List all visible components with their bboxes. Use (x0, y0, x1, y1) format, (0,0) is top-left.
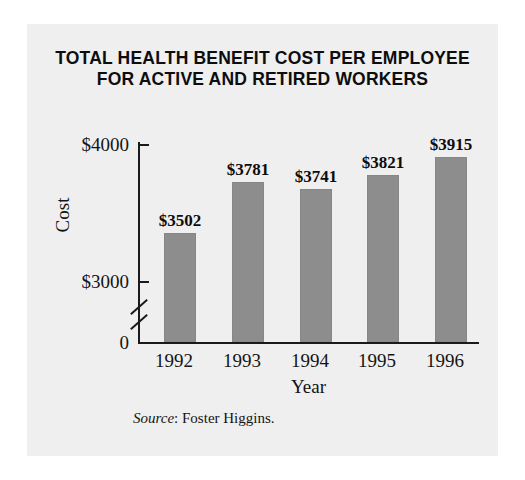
y-axis-title: Cost (52, 175, 74, 255)
x-axis-label-1994: 1994 (274, 350, 346, 372)
bar-value-label-1996: $3915 (415, 135, 487, 155)
bar-1993 (232, 182, 264, 342)
bar-1996 (435, 157, 467, 342)
bar-1992 (164, 233, 196, 342)
plot-area: $4000 $3000 0 Cost $3502$3781$3741$3821$… (27, 24, 498, 456)
bar-value-label-1994: $3741 (280, 167, 352, 187)
bar-value-label-1993: $3781 (212, 160, 284, 180)
y-axis-label-3000: $3000 (63, 271, 129, 293)
source-label: Source (133, 410, 174, 426)
source-text: Foster Higgins. (182, 410, 275, 426)
y-axis-label-zero: 0 (63, 332, 129, 354)
source-separator: : (174, 410, 182, 426)
bar-value-label-1995: $3821 (347, 153, 419, 173)
y-axis-label-4000: $4000 (63, 134, 129, 156)
chart-screenshot: TOTAL HEALTH BENEFIT COST PER EMPLOYEE F… (0, 0, 525, 480)
x-axis-label-1995: 1995 (341, 350, 413, 372)
source-note: Source: Foster Higgins. (133, 410, 275, 427)
bar-1995 (367, 175, 399, 342)
x-axis-label-1996: 1996 (409, 350, 481, 372)
x-axis-line (138, 342, 479, 344)
x-axis-label-1992: 1992 (138, 350, 210, 372)
x-axis-label-1993: 1993 (206, 350, 278, 372)
bar-value-label-1992: $3502 (144, 211, 216, 231)
chart-panel: TOTAL HEALTH BENEFIT COST PER EMPLOYEE F… (27, 24, 498, 456)
bar-series: $3502$3781$3741$3821$3915 (140, 142, 479, 342)
bar-1994 (300, 189, 332, 342)
x-axis-title: Year (138, 376, 479, 398)
